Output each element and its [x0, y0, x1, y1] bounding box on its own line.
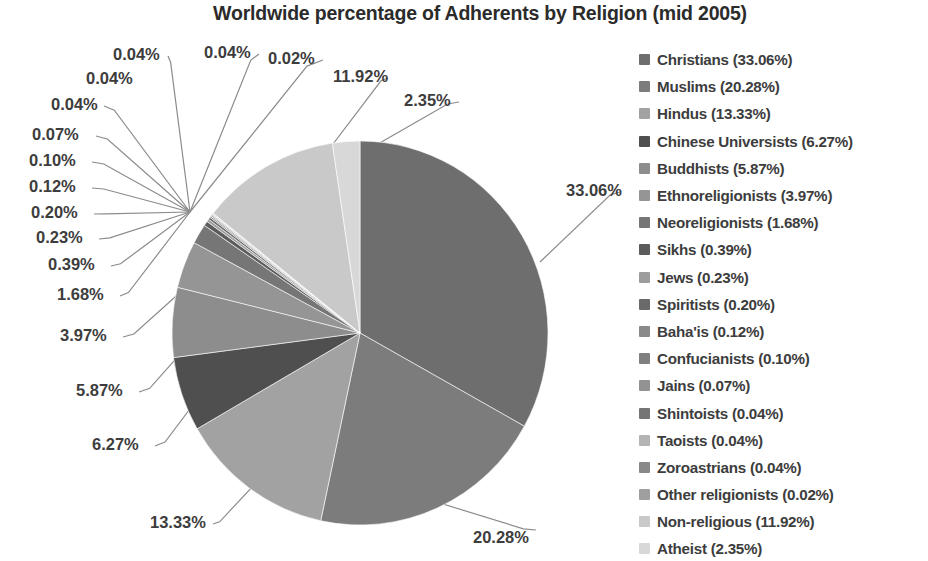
legend-item-label: Chinese Universists (6.27%)	[657, 133, 853, 150]
legend-item[interactable]: Ethnoreligionists (3.97%)	[639, 182, 928, 209]
legend-swatch-icon	[639, 353, 650, 364]
legend-item[interactable]: Non-religious (11.92%)	[639, 508, 928, 535]
legend-item-label: Jews (0.23%)	[657, 269, 749, 286]
legend-item[interactable]: Chinese Universists (6.27%)	[639, 128, 928, 155]
legend-swatch-icon	[639, 190, 650, 201]
slice-label: 0.07%	[32, 125, 79, 143]
chart-legend: Christians (33.06%)Muslims (20.28%)Hindu…	[639, 46, 928, 561]
legend-item[interactable]: Spiritists (0.20%)	[639, 291, 928, 318]
legend-swatch-icon	[639, 217, 650, 228]
legend-swatch-icon	[639, 326, 650, 337]
slice-label: 0.04%	[204, 43, 251, 61]
slice-label: 0.10%	[29, 151, 76, 169]
legend-item-label: Confucianists (0.10%)	[657, 350, 810, 367]
pie-slice-layer	[172, 141, 548, 525]
leader-line	[104, 106, 190, 212]
legend-item[interactable]: Muslims (20.28%)	[639, 73, 928, 100]
legend-item[interactable]: Atheist (2.35%)	[639, 535, 928, 561]
legend-item[interactable]: Taoists (0.04%)	[639, 427, 928, 454]
slice-label: 0.20%	[31, 203, 78, 221]
slice-label: 0.39%	[48, 255, 95, 273]
slice-label: 2.35%	[404, 91, 451, 109]
leader-line	[168, 56, 190, 212]
legend-item-label: Muslims (20.28%)	[657, 78, 780, 95]
legend-swatch-icon	[639, 435, 650, 446]
legend-item-label: Baha'is (0.12%)	[657, 323, 764, 340]
legend-swatch-icon	[639, 299, 650, 310]
legend-item-label: Shintoists (0.04%)	[657, 405, 783, 422]
legend-swatch-icon	[639, 136, 650, 147]
legend-item[interactable]: Buddhists (5.87%)	[639, 155, 928, 182]
slice-label: 3.97%	[60, 326, 107, 344]
slice-label: 20.28%	[473, 528, 529, 546]
legend-item-label: Christians (33.06%)	[657, 51, 792, 68]
leader-line	[96, 136, 190, 212]
slice-label: 33.06%	[566, 181, 622, 199]
slice-label: 0.12%	[29, 177, 76, 195]
legend-item[interactable]: Zoroastrians (0.04%)	[639, 454, 928, 481]
slice-label: 0.04%	[86, 69, 133, 87]
slice-label: 5.87%	[76, 381, 123, 399]
legend-item-label: Atheist (2.35%)	[657, 540, 762, 557]
legend-item[interactable]: Neoreligionists (1.68%)	[639, 209, 928, 236]
legend-swatch-icon	[639, 408, 650, 419]
legend-item[interactable]: Shintoists (0.04%)	[639, 399, 928, 426]
legend-item[interactable]: Christians (33.06%)	[639, 46, 928, 73]
legend-swatch-icon	[639, 163, 650, 174]
slice-label: 0.23%	[36, 228, 83, 246]
legend-item[interactable]: Confucianists (0.10%)	[639, 345, 928, 372]
legend-item[interactable]: Jews (0.23%)	[639, 264, 928, 291]
leader-line	[540, 192, 620, 262]
legend-item[interactable]: Hindus (13.33%)	[639, 100, 928, 127]
legend-swatch-icon	[639, 462, 650, 473]
legend-swatch-icon	[639, 543, 650, 554]
leader-line	[94, 212, 190, 214]
slice-label: 11.92%	[333, 67, 388, 85]
legend-item-label: Other religionists (0.02%)	[657, 486, 834, 503]
legend-swatch-icon	[639, 81, 650, 92]
legend-item-label: Zoroastrians (0.04%)	[657, 459, 801, 476]
legend-swatch-icon	[639, 380, 650, 391]
legend-swatch-icon	[639, 516, 650, 527]
legend-item[interactable]: Jains (0.07%)	[639, 372, 928, 399]
legend-item-label: Neoreligionists (1.68%)	[657, 214, 818, 231]
legend-swatch-icon	[639, 54, 650, 65]
legend-swatch-icon	[639, 244, 650, 255]
legend-item-label: Ethnoreligionists (3.97%)	[657, 187, 832, 204]
legend-item-label: Jains (0.07%)	[657, 377, 750, 394]
leader-line	[111, 212, 190, 266]
legend-swatch-icon	[639, 108, 650, 119]
leader-line	[430, 500, 536, 530]
slice-label: 0.04%	[113, 45, 160, 63]
legend-item-label: Non-religious (11.92%)	[657, 513, 814, 530]
slice-label: 1.68%	[57, 285, 104, 303]
legend-swatch-icon	[639, 272, 650, 283]
slice-label: 13.33%	[150, 513, 206, 531]
legend-item[interactable]: Other religionists (0.02%)	[639, 481, 928, 508]
legend-item-label: Buddhists (5.87%)	[657, 160, 784, 177]
legend-item[interactable]: Sikhs (0.39%)	[639, 236, 928, 263]
legend-item[interactable]: Baha'is (0.12%)	[639, 318, 928, 345]
leader-line	[330, 78, 388, 148]
legend-item-label: Taoists (0.04%)	[657, 432, 763, 449]
slice-label: 0.02%	[268, 49, 315, 67]
legend-item-label: Sikhs (0.39%)	[657, 241, 752, 258]
slice-label: 0.04%	[51, 95, 98, 113]
legend-item-label: Hindus (13.33%)	[657, 105, 771, 122]
leader-line	[99, 212, 190, 239]
legend-item-label: Spiritists (0.20%)	[657, 296, 775, 313]
slice-label: 6.27%	[92, 435, 139, 453]
legend-swatch-icon	[639, 489, 650, 500]
